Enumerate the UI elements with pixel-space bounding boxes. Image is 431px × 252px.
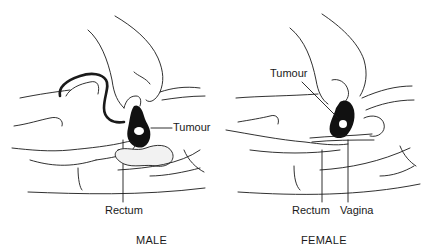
male-drawing xyxy=(12,16,205,202)
male-rectum-label: Rectum xyxy=(105,204,143,216)
illustration-canvas: Tumour Rectum MALE Tumour Rectum Vagina … xyxy=(0,0,431,252)
female-caption: FEMALE xyxy=(301,234,347,246)
female-vagina-label: Vagina xyxy=(340,204,373,216)
female-drawing xyxy=(226,14,420,202)
female-tumour-label: Tumour xyxy=(270,67,308,79)
male-tumour-label: Tumour xyxy=(173,121,211,133)
male-caption: MALE xyxy=(136,234,167,246)
female-rectum-label: Rectum xyxy=(292,204,330,216)
